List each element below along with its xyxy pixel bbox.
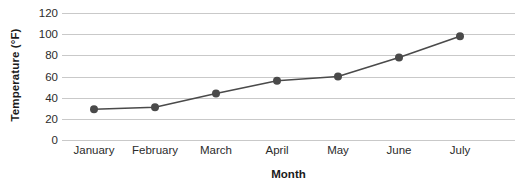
x-tick-label: March xyxy=(200,144,232,156)
y-tick-label: 80 xyxy=(45,49,58,61)
gridline xyxy=(62,140,515,141)
data-point-marker xyxy=(395,53,403,61)
data-point-marker xyxy=(212,89,220,97)
x-tick-label: January xyxy=(74,144,115,156)
plot-area xyxy=(62,13,515,140)
x-tick-label: June xyxy=(387,144,412,156)
chart-screenshot: Temperature (°F) 020406080100120 January… xyxy=(0,0,529,196)
data-point-marker xyxy=(90,105,98,113)
series-markers xyxy=(90,32,464,113)
data-point-marker xyxy=(151,103,159,111)
y-tick-label: 120 xyxy=(39,7,58,19)
data-point-marker xyxy=(273,77,281,85)
x-tick-label: February xyxy=(132,144,178,156)
x-tick-label: July xyxy=(450,144,470,156)
y-tick-label: 100 xyxy=(39,28,58,40)
x-axis-title: Month xyxy=(62,168,515,180)
x-axis-tick-labels: JanuaryFebruaryMarchAprilMayJuneJuly xyxy=(62,144,515,164)
y-axis-tick-labels: 020406080100120 xyxy=(28,7,58,141)
y-axis-title: Temperature (°F) xyxy=(0,0,30,150)
y-axis-title-text: Temperature (°F) xyxy=(9,29,21,122)
y-tick-label: 0 xyxy=(52,134,58,146)
line-series xyxy=(62,13,515,140)
y-tick-label: 60 xyxy=(45,71,58,83)
series-line xyxy=(94,36,460,109)
y-tick-label: 40 xyxy=(45,92,58,104)
x-tick-label: May xyxy=(327,144,349,156)
x-tick-label: April xyxy=(265,144,288,156)
data-point-marker xyxy=(456,32,464,40)
data-point-marker xyxy=(334,73,342,81)
y-tick-label: 20 xyxy=(45,113,58,125)
